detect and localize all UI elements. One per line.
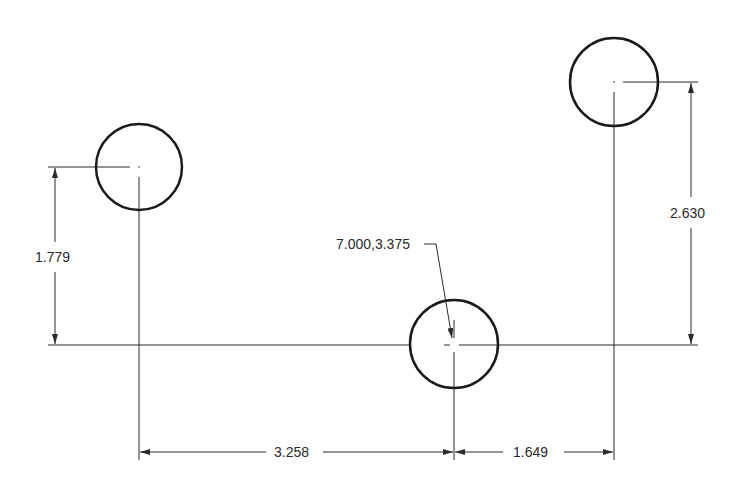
bottom-left-dim-text: 3.258 bbox=[274, 444, 309, 460]
leader-line bbox=[424, 244, 452, 338]
left-vertical-dim-text: 1.779 bbox=[35, 249, 70, 265]
right-vertical-dim-text: 2.630 bbox=[670, 205, 705, 221]
left-hole-center-mark bbox=[138, 166, 140, 168]
dimension-drawing: 1.779 2.630 3.258 1.649 7.000,3.375 bbox=[0, 0, 737, 491]
right-hole-center-mark bbox=[613, 81, 615, 83]
leader-note-text: 7.000,3.375 bbox=[336, 236, 410, 252]
bottom-right-dim-text: 1.649 bbox=[513, 444, 548, 460]
